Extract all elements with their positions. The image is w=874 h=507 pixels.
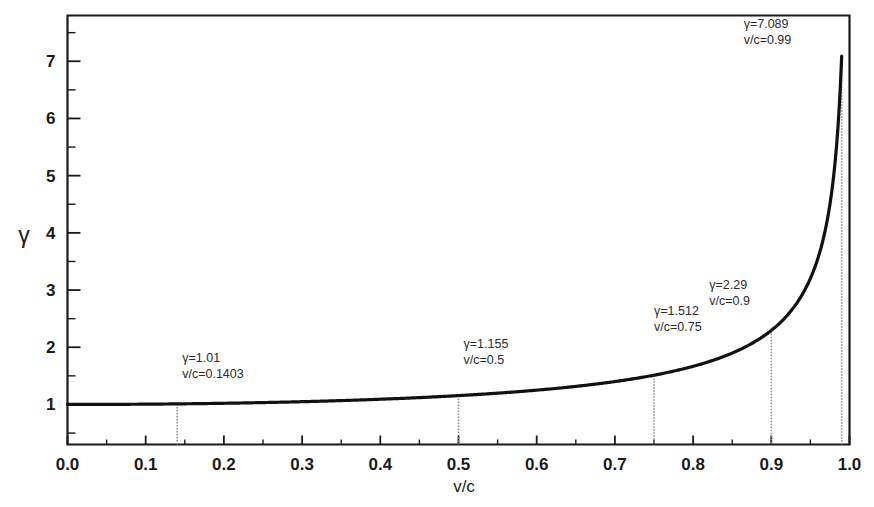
x-tick-label: 0.0 xyxy=(56,455,80,474)
x-tick-label: 0.9 xyxy=(759,455,783,474)
annotation-vc-label: v/c=0.5 xyxy=(464,353,505,367)
annotation-gamma-label: γ=7.089 xyxy=(744,17,789,31)
x-tick-label: 0.2 xyxy=(212,455,236,474)
lorentz-factor-chart: 0.00.10.20.30.40.50.60.70.80.91.0 123456… xyxy=(0,0,874,507)
y-tick-label: 3 xyxy=(46,281,55,300)
x-tick-label: 0.3 xyxy=(290,455,314,474)
y-tick-label: 6 xyxy=(46,109,55,128)
annotation-gamma-label: γ=1.01 xyxy=(182,351,220,365)
x-tick-label: 0.6 xyxy=(525,455,549,474)
x-tick-label: 0.1 xyxy=(134,455,158,474)
y-tick-label: 5 xyxy=(46,167,55,186)
annotation-vc-label: v/c=0.1403 xyxy=(182,367,244,381)
annotation-vc-label: v/c=0.99 xyxy=(744,33,792,47)
y-tick-label: 4 xyxy=(46,224,56,243)
y-tick-label: 2 xyxy=(46,338,55,357)
x-axis-title: v/c xyxy=(453,477,475,496)
annotation-gamma-label: γ=2.29 xyxy=(709,278,747,292)
y-tick-label: 7 xyxy=(46,52,55,71)
annotation-vc-label: v/c=0.9 xyxy=(709,294,750,308)
annotation-gamma-label: γ=1.155 xyxy=(464,337,509,351)
x-tick-label: 0.7 xyxy=(603,455,627,474)
y-axis-title: γ xyxy=(18,222,30,248)
chart-background xyxy=(0,0,874,507)
x-tick-label: 1.0 xyxy=(838,455,862,474)
chart-svg: 0.00.10.20.30.40.50.60.70.80.91.0 123456… xyxy=(0,0,874,507)
x-tick-label: 0.4 xyxy=(368,455,392,474)
annotation-vc-label: v/c=0.75 xyxy=(654,320,702,334)
annotation-gamma-label: γ=1.512 xyxy=(654,304,699,318)
x-tick-label: 0.8 xyxy=(681,455,705,474)
y-tick-label: 1 xyxy=(46,395,55,414)
x-tick-label: 0.5 xyxy=(447,455,471,474)
